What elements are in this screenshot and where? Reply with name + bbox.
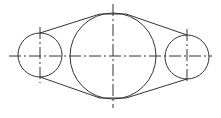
- upper-right-tangent: [126, 14, 187, 35]
- centerline-group: [9, 4, 212, 108]
- lower-right-tangent: [126, 79, 187, 98]
- upper-left-tangent: [40, 14, 100, 33]
- lower-left-tangent: [40, 77, 100, 98]
- technical-drawing: [0, 0, 221, 118]
